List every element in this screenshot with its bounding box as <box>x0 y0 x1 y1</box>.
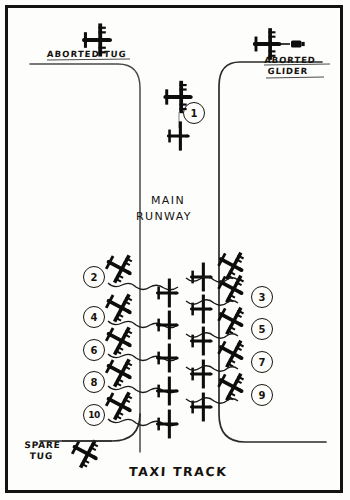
aircraft-spare-tug <box>66 432 105 472</box>
runway-outline-left <box>30 64 140 452</box>
diagram-page: ABORTED TUG ABORTED GLIDER MAIN RUNWAY S… <box>0 0 350 500</box>
label-spare-tug-line1: SPARE <box>24 440 61 450</box>
label-spare-tug-line2: TUG <box>23 451 60 462</box>
position-marker-5: 5 <box>251 318 273 340</box>
label-main-runway-line1: MAIN <box>151 194 185 207</box>
label-taxi-track: TAXI TRACK <box>129 464 228 480</box>
aircraft-runway-glider-1 <box>167 121 190 150</box>
position-marker-3: 3 <box>251 286 273 308</box>
right-tug-group <box>212 245 250 405</box>
position-marker-10: 10 <box>83 404 105 426</box>
label-aborted-glider-line1: ABORTED <box>264 55 316 65</box>
aborted-glider-underline2 <box>266 77 324 78</box>
position-marker-2: 2 <box>83 266 105 288</box>
label-main-runway-line2: RUNWAY <box>136 210 192 224</box>
position-marker-7: 7 <box>251 351 273 373</box>
left-tug-group <box>100 247 139 424</box>
label-spare-tug: SPARE TUG <box>23 440 60 463</box>
mid-glider-column-a <box>156 279 179 439</box>
position-marker-1: 1 <box>183 102 205 124</box>
label-aborted-tug: ABORTED TUG <box>47 49 127 60</box>
label-main-runway: MAIN RUNWAY <box>144 194 192 224</box>
label-aborted-glider: ABORTED GLIDER <box>263 55 316 76</box>
label-aborted-glider-line2: GLIDER <box>263 66 315 77</box>
position-marker-4: 4 <box>83 306 105 328</box>
position-marker-6: 6 <box>83 339 105 361</box>
position-marker-8: 8 <box>83 371 105 393</box>
position-marker-9: 9 <box>251 384 273 406</box>
